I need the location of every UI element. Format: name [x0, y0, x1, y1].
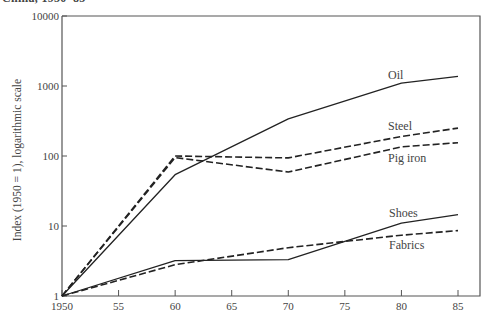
line-chart: 110100100010000195055606570758085 OilSte…	[0, 0, 489, 319]
x-tick-label: 70	[283, 300, 295, 312]
series-lines	[62, 76, 458, 296]
x-tick-label: 55	[113, 300, 125, 312]
x-tick-label: 80	[396, 300, 408, 312]
series-labels: OilSteelPig ironShoesFabrics	[388, 68, 426, 252]
series-line-shoes	[62, 215, 458, 296]
label-oil: Oil	[388, 68, 404, 82]
x-tick-label: 65	[226, 300, 238, 312]
y-tick-label: 10	[48, 220, 60, 232]
y-tick-label: 1000	[37, 80, 60, 92]
x-tick-label: 75	[339, 300, 351, 312]
label-shoes: Shoes	[389, 206, 418, 220]
x-tick-label: 85	[453, 300, 465, 312]
x-tick-label: 60	[170, 300, 182, 312]
series-line-oil	[62, 76, 458, 296]
y-tick-label: 100	[43, 150, 60, 162]
label-fabrics: Fabrics	[389, 238, 425, 252]
label-steel: Steel	[388, 119, 413, 133]
x-tick-label: 1950	[51, 300, 74, 312]
label-pig-iron: Pig iron	[388, 151, 426, 165]
y-tick-label: 10000	[32, 10, 60, 22]
